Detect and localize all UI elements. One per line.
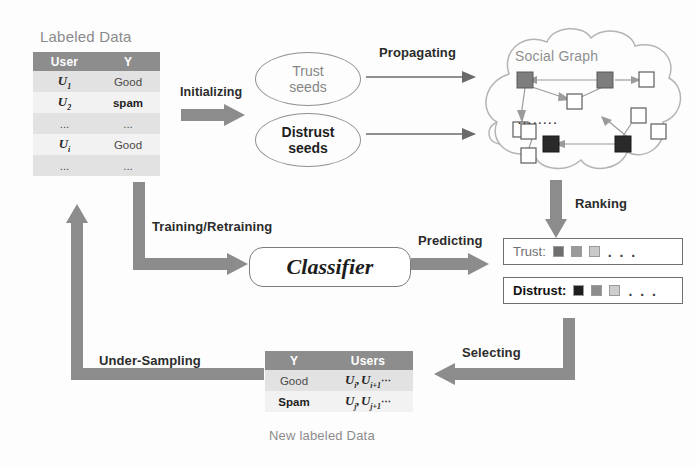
cell-y: Good xyxy=(96,134,160,155)
new-labeled-data-table: Y Users Good Ui, Ui+1⋯ Spam Uj, Uj+1⋯ xyxy=(265,351,413,412)
cell-users: Uj, Uj+1⋯ xyxy=(323,391,413,412)
column-header-users: Users xyxy=(323,351,413,370)
table-row: ... ... xyxy=(33,113,160,134)
trust-ellipsis: . . . xyxy=(608,244,637,260)
trust-square-2 xyxy=(571,246,582,257)
label-under-sampling: Under-Sampling xyxy=(99,353,201,368)
table-row: U1 Good xyxy=(33,71,160,92)
column-header-y: Y xyxy=(265,351,323,370)
distrust-seeds-ellipse: Distrustseeds xyxy=(255,113,361,167)
label-ranking: Ranking xyxy=(575,196,627,211)
distrust-square-3 xyxy=(609,285,620,296)
cell-y: Spam xyxy=(265,391,323,412)
distrust-rank-box: Distrust: . . . xyxy=(503,277,683,304)
distrust-seeds-label: Distrustseeds xyxy=(282,124,335,156)
distrust-square-1 xyxy=(573,285,584,296)
classifier-box: Classifier xyxy=(249,247,411,287)
classifier-label: Classifier xyxy=(287,254,374,280)
social-graph-inner-dots: ........ xyxy=(518,114,558,126)
table-row: Ui Good xyxy=(33,134,160,155)
trust-rank-box: Trust: . . . xyxy=(503,238,683,265)
under-sampling-up-arrow-icon xyxy=(66,204,88,344)
label-selecting: Selecting xyxy=(462,345,521,360)
distrust-ellipsis: . . . xyxy=(628,283,657,299)
diagram-canvas: Labeled Data User Y U1 Good U2 spam ... … xyxy=(0,0,697,469)
column-header-y: Y xyxy=(96,52,160,71)
cell-user: Ui xyxy=(33,134,96,155)
cell-y: ... xyxy=(96,113,160,134)
trust-seeds-label: Trustseeds xyxy=(289,63,326,95)
cell-user: ... xyxy=(33,113,96,134)
table-header-row: Y Users xyxy=(265,351,413,370)
trust-rank-label: Trust: xyxy=(513,244,546,259)
initializing-arrow-icon xyxy=(181,104,245,126)
cell-user: U1 xyxy=(33,71,96,92)
distrust-square-2 xyxy=(591,285,602,296)
new-labeled-data-caption: New labeled Data xyxy=(269,428,375,443)
labeled-data-title: Labeled Data xyxy=(40,28,132,45)
selecting-arrow-icon xyxy=(434,368,575,380)
table-row: Good Ui, Ui+1⋯ xyxy=(265,370,413,391)
column-header-user: User xyxy=(33,52,96,71)
trust-square-1 xyxy=(553,246,564,257)
table-row: U2 spam xyxy=(33,92,160,113)
table-row: Spam Uj, Uj+1⋯ xyxy=(265,391,413,412)
table-header-row: User Y xyxy=(33,52,160,71)
social-graph-nodes xyxy=(455,24,687,176)
label-initializing: Initializing xyxy=(180,85,242,99)
trust-seeds-ellipse: Trustseeds xyxy=(255,52,361,106)
distrust-rank-label: Distrust: xyxy=(513,283,566,298)
cell-user: U2 xyxy=(33,92,96,113)
cell-y: Good xyxy=(96,71,160,92)
trust-square-3 xyxy=(589,246,600,257)
label-propagating: Propagating xyxy=(379,45,456,60)
cell-y: Good xyxy=(265,370,323,391)
ranking-arrow-icon xyxy=(545,180,567,238)
table-row: ... ... xyxy=(33,155,160,176)
labeled-data-table: User Y U1 Good U2 spam ... ... Ui Good .… xyxy=(33,52,160,176)
cell-users: Ui, Ui+1⋯ xyxy=(323,370,413,391)
cell-y: spam xyxy=(96,92,160,113)
label-training: Training/Retraining xyxy=(152,219,272,234)
cell-y: ... xyxy=(96,155,160,176)
label-predicting: Predicting xyxy=(418,233,483,248)
cell-user: ... xyxy=(33,155,96,176)
predicting-arrow-icon xyxy=(411,253,491,275)
